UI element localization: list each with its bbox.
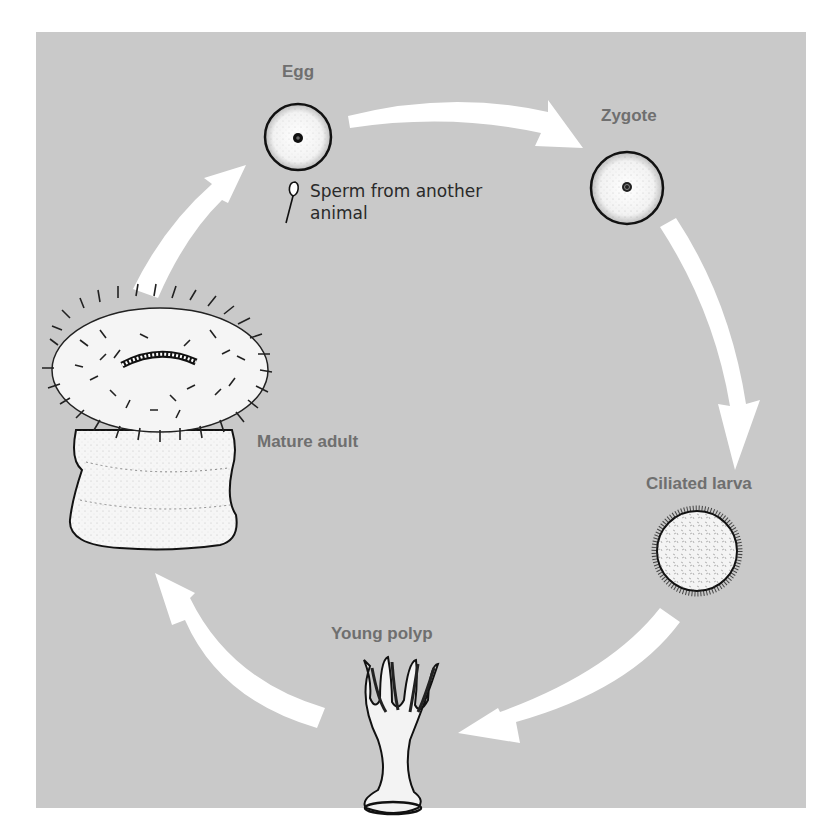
arrow-egg-to-zygote [348, 100, 583, 148]
label-zygote: Zygote [601, 106, 657, 126]
sperm-annotation: Sperm from another animal [310, 180, 482, 224]
ciliated-larva-illustration [654, 508, 740, 594]
egg-illustration [265, 104, 331, 170]
arrow-adult-to-egg [133, 165, 246, 298]
label-mature-adult: Mature adult [257, 432, 358, 452]
arrow-larva-to-polyp [458, 608, 680, 743]
arrow-polyp-to-adult [155, 573, 325, 728]
sperm-annotation-line2: animal [310, 202, 482, 224]
sperm-illustration [286, 182, 298, 223]
life-cycle-diagram [0, 0, 835, 827]
zygote-illustration [591, 152, 663, 224]
label-young-polyp: Young polyp [331, 624, 433, 644]
mature-adult-illustration [42, 284, 272, 549]
young-polyp-illustration [364, 657, 438, 814]
arrow-zygote-to-larva [660, 218, 760, 470]
sperm-annotation-line1: Sperm from another [310, 180, 482, 202]
label-ciliated-larva: Ciliated larva [646, 474, 752, 494]
label-egg: Egg [282, 62, 314, 82]
